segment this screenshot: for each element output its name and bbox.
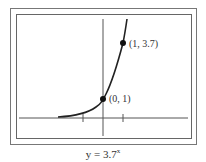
caption-base: y = 3.7 <box>86 148 117 160</box>
inner-frame <box>17 15 192 139</box>
graph-diagram: (0, 1) (1, 3.7) <box>0 0 206 162</box>
caption-exponent: x <box>117 147 121 155</box>
label-point-0-1: (0, 1) <box>109 93 131 105</box>
figure-caption: y = 3.7x <box>0 147 206 160</box>
point-0-1 <box>100 96 106 102</box>
point-1-3-7 <box>120 40 126 46</box>
label-point-1-3-7: (1, 3.7) <box>129 38 158 50</box>
